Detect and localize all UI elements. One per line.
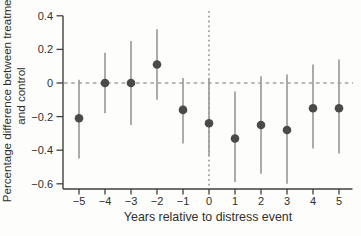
data-point: [309, 104, 318, 113]
y-axis-title-line-2: and control: [14, 67, 27, 124]
data-point: [179, 106, 188, 115]
plot-layer: 0.40.20−0.2−0.4−0.6−5−4−3−2−1012345: [31, 10, 353, 207]
x-tick-label: 0: [206, 195, 212, 207]
y-tick-label: −0.2: [31, 111, 53, 123]
data-point: [231, 134, 240, 143]
x-tick-label: 3: [284, 195, 290, 207]
x-tick-label: −5: [73, 195, 86, 207]
y-tick-label: −0.6: [31, 178, 53, 190]
x-tick-label: 2: [258, 195, 264, 207]
data-point: [205, 119, 214, 128]
y-tick-label: −0.4: [31, 144, 53, 156]
x-tick-label: 5: [336, 195, 342, 207]
x-tick-label: 1: [232, 195, 238, 207]
x-tick-label: −2: [151, 195, 164, 207]
coefficient-plot-figure: 0.40.20−0.2−0.4−0.6−5−4−3−2−1012345 Year…: [0, 0, 361, 236]
event-study-chart: 0.40.20−0.2−0.4−0.6−5−4−3−2−1012345 Year…: [0, 0, 361, 236]
data-point: [283, 126, 292, 135]
x-tick-label: −1: [177, 195, 190, 207]
data-point: [75, 114, 84, 123]
x-tick-label: 4: [310, 195, 316, 207]
data-point: [101, 79, 110, 88]
data-point: [153, 60, 162, 69]
y-axis-title-line-1: Percentage difference between treatment: [0, 0, 13, 202]
data-point: [127, 79, 136, 88]
y-tick-label: 0.2: [38, 43, 53, 55]
y-tick-label: 0: [47, 77, 53, 89]
x-tick-label: −4: [99, 195, 112, 207]
x-tick-label: −3: [125, 195, 138, 207]
data-point: [257, 121, 266, 130]
data-point: [335, 104, 344, 113]
y-tick-label: 0.4: [38, 10, 53, 22]
x-axis-title: Years relative to distress event: [124, 210, 293, 224]
